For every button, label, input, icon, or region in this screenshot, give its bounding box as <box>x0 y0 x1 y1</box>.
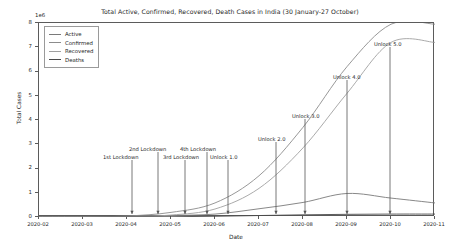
x-tick-label: 2020-03 <box>59 221 105 227</box>
y-tick-label: 0 <box>2 213 32 219</box>
legend-label: Confirmed <box>65 39 93 48</box>
legend-item-active[interactable]: Active <box>49 30 93 39</box>
legend-line-swatch <box>49 59 61 60</box>
legend-item-deaths[interactable]: Deaths <box>49 56 93 65</box>
y-tick-label: 7 <box>2 43 32 49</box>
legend-label: Deaths <box>65 56 84 65</box>
x-tick-label: 2020-05 <box>147 221 193 227</box>
legend-item-confirmed[interactable]: Confirmed <box>49 39 93 48</box>
series-line-deaths <box>39 214 435 217</box>
legend-line-swatch <box>49 51 61 52</box>
x-tick-label: 2020-08 <box>279 221 325 227</box>
x-tick-label: 2020-02 <box>15 221 61 227</box>
y-tick-label: 6 <box>2 67 32 73</box>
x-tick-label: 2020-10 <box>367 221 413 227</box>
chart-figure: Total Active, Confirmed, Recovered, Deat… <box>0 0 460 250</box>
y-axis-label: Total Cases <box>16 78 22 138</box>
y-tick-label: 4 <box>2 116 32 122</box>
x-tick-label: 2020-04 <box>103 221 149 227</box>
x-tick-label: 2020-07 <box>235 221 281 227</box>
y-tick-label: 2 <box>2 164 32 170</box>
legend-item-recovered[interactable]: Recovered <box>49 47 93 56</box>
legend-line-swatch <box>49 42 61 43</box>
legend-label: Active <box>65 30 82 39</box>
y-tick-label: 5 <box>2 92 32 98</box>
legend-label: Recovered <box>65 47 93 56</box>
chart-title: Total Active, Confirmed, Recovered, Deat… <box>0 7 460 16</box>
chart-legend: ActiveConfirmedRecoveredDeaths <box>44 26 99 68</box>
series-line-active <box>39 193 435 217</box>
legend-line-swatch <box>49 34 61 35</box>
y-tick-label: 1 <box>2 189 32 195</box>
y-tick-label: 3 <box>2 140 32 146</box>
x-tick-label: 2020-11 <box>411 221 457 227</box>
y-tick-label: 8 <box>2 19 32 25</box>
x-tick-label: 2020-06 <box>191 221 237 227</box>
x-axis-label: Date <box>38 234 434 240</box>
y-axis-offset-label: 1e6 <box>35 12 45 18</box>
x-tick-label: 2020-09 <box>323 221 369 227</box>
